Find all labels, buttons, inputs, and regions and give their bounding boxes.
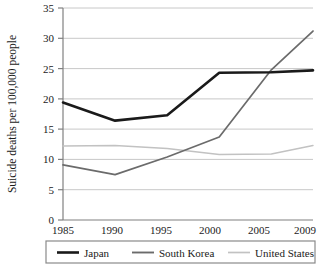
y-axis-title: Suicide deaths per 100,000 people xyxy=(6,35,19,193)
y-tick-label-20: 20 xyxy=(43,93,55,105)
legend-label-south-korea: South Korea xyxy=(159,247,214,259)
y-tick-label-35: 35 xyxy=(43,2,55,14)
y-tick-label-5: 5 xyxy=(49,184,55,196)
line-chart: 35 30 25 20 15 10 5 0 Suicide deaths per… xyxy=(0,0,327,266)
legend-label-united-states: United States xyxy=(255,247,314,259)
x-tick-label-1995: 1995 xyxy=(150,224,173,236)
x-tick-label-1990: 1990 xyxy=(101,224,124,236)
y-tick-label-30: 30 xyxy=(43,32,55,44)
y-tick-label-15: 15 xyxy=(43,123,55,135)
legend: Japan South Korea United States xyxy=(46,241,315,263)
x-tick-label-2005: 2005 xyxy=(248,224,271,236)
chart-canvas: 35 30 25 20 15 10 5 0 Suicide deaths per… xyxy=(0,0,327,266)
y-tick-label-25: 25 xyxy=(43,63,55,75)
x-tick-label-1985: 1985 xyxy=(52,224,75,236)
x-tick-label-2000: 2000 xyxy=(199,224,222,236)
x-tick-label-2009: 2009 xyxy=(294,224,317,236)
y-tick-label-10: 10 xyxy=(43,153,55,165)
legend-label-japan: Japan xyxy=(84,247,110,259)
